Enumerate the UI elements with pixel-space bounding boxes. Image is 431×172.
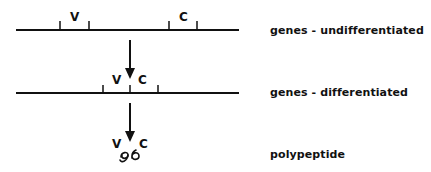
down-arrow-icon	[125, 40, 135, 79]
v-segment-label: V	[70, 11, 79, 23]
c-region-label: C	[139, 138, 148, 150]
v-region-label: V	[112, 138, 121, 150]
stage-label-undifferentiated: genes - undifferentiated	[270, 24, 424, 37]
stage-label-polypeptide: polypeptide	[270, 148, 345, 161]
undifferentiated-gene-line	[16, 21, 239, 30]
polypeptide-chain-icon	[120, 150, 139, 162]
down-arrow-icon	[125, 103, 135, 142]
v-segment-label: V	[112, 74, 121, 86]
differentiated-gene-line	[16, 85, 239, 93]
gene-rearrangement-diagram: V C V C V C genes - undifferentiated gen…	[0, 0, 431, 172]
c-segment-label: C	[179, 11, 188, 23]
stage-label-differentiated: genes - differentiated	[270, 86, 408, 99]
c-segment-label: C	[138, 74, 147, 86]
